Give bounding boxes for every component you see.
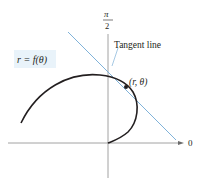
axis-right-label: 0 [188, 138, 193, 148]
tangent-label-leader [112, 48, 118, 66]
tangent-label: Tangent line [114, 40, 161, 50]
polar-tangent-diagram: r = f(θ) Tangent line (r, θ) π 2 0 [0, 0, 204, 182]
axis-top-label-numerator: π [104, 9, 109, 19]
axis-top-label-denominator: 2 [105, 21, 109, 31]
polar-curve [21, 75, 137, 143]
point-label: (r, θ) [129, 77, 147, 88]
polar-axis-arrow-icon [178, 141, 184, 145]
point-marker-icon [124, 85, 128, 89]
curve-label: r = f(θ) [17, 54, 48, 66]
